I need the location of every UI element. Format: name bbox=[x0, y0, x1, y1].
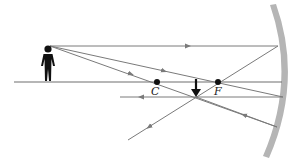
object-person-icon bbox=[41, 45, 55, 81]
ray-parallel bbox=[50, 46, 278, 140]
ray-through-focus bbox=[50, 46, 283, 97]
ray-through-center bbox=[50, 46, 277, 127]
label-f: F bbox=[214, 86, 222, 97]
label-c: C bbox=[151, 86, 159, 97]
ray-diagram bbox=[0, 0, 302, 163]
concave-mirror bbox=[263, 4, 288, 158]
